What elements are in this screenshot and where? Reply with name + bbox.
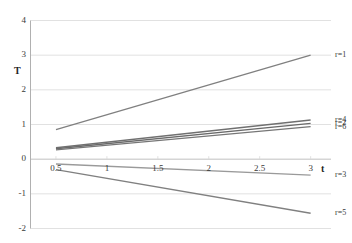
y-tick-label-2: 2	[4, 85, 26, 94]
y-tick-label--2: -2	[4, 224, 26, 233]
x-tick-label-2: 2	[194, 164, 224, 173]
x-tick-label-1-5: 1.5	[143, 164, 173, 173]
chart-container: 43210-1-2 0.511.522.53 r=1r=4r=2r=6r=3r=…	[0, 0, 352, 243]
series-label-r6: r=6	[335, 123, 346, 131]
chart-plot-svg	[0, 0, 352, 243]
series-label-r1: r=1	[335, 51, 346, 59]
y-tick-label-1: 1	[4, 120, 26, 129]
series-line-r6	[56, 127, 311, 150]
y-tick-label-3: 3	[4, 50, 26, 59]
series-label-r3: r=3	[335, 171, 346, 179]
y-tick-label--1: -1	[4, 189, 26, 198]
x-tick-label-2-5: 2.5	[245, 164, 275, 173]
y-tick-label-0: 0	[4, 154, 26, 163]
series-line-r5	[56, 170, 311, 214]
y-tick-label-4: 4	[4, 16, 26, 25]
series-line-group	[56, 55, 311, 213]
series-label-r5: r=5	[335, 209, 346, 217]
x-tick-label-0-5: 0.5	[41, 164, 71, 173]
series-line-r2	[56, 123, 311, 148]
x-axis-title: t	[321, 164, 324, 174]
y-axis-title: T	[14, 66, 21, 76]
x-tick-label-1: 1	[92, 164, 122, 173]
series-line-r1	[56, 55, 311, 130]
